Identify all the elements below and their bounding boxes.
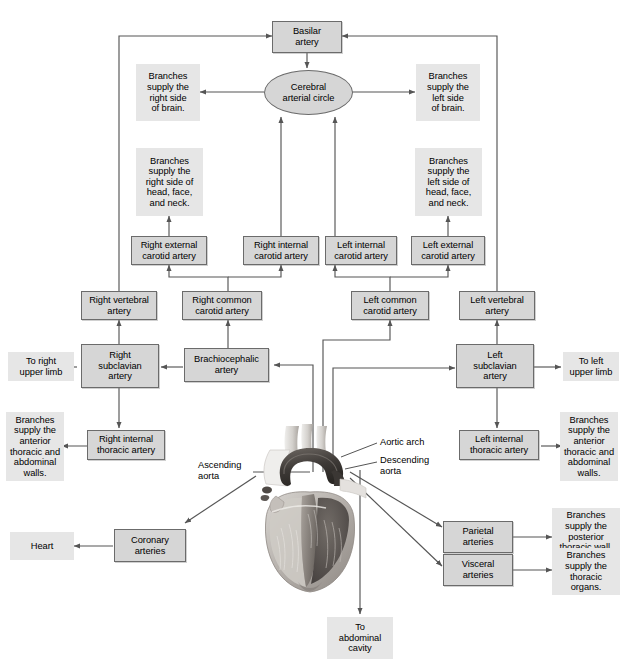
callout-ascending-aorta: Ascending aorta	[198, 460, 241, 482]
callout-aortic-arch: Aortic arch	[380, 437, 424, 448]
callout-descending-aorta: Descending aorta	[380, 455, 429, 477]
node-right-external-carotid-artery[interactable]: Right external carotid artery	[131, 236, 207, 265]
figure-canvas: Basilar artery Cerebral arterial circle …	[0, 0, 623, 665]
node-branches-left-brain: Branches supply the left side of brain.	[416, 64, 480, 121]
node-branches-thoracic-organs: Branches supply the thoracic organs.	[552, 548, 620, 595]
node-parietal-arteries[interactable]: Parietal arteries	[443, 521, 513, 553]
node-branches-left-thoracic-walls: Branches supply the anterior thoracic an…	[560, 412, 618, 481]
node-branches-left-head: Branches supply the left side of head, f…	[415, 148, 482, 216]
node-to-left-upper-limb: To left upper limb	[563, 352, 619, 381]
node-to-abdominal-cavity: To abdominal cavity	[327, 617, 393, 659]
node-branches-right-head: Branches supply the right side of head, …	[136, 148, 203, 216]
node-left-vertebral-artery[interactable]: Left vertebral artery	[459, 291, 535, 320]
node-left-internal-carotid-artery[interactable]: Left internal carotid artery	[325, 236, 397, 265]
node-cerebral-arterial-circle[interactable]: Cerebral arterial circle	[264, 70, 353, 115]
node-left-external-carotid-artery[interactable]: Left external carotid artery	[411, 236, 485, 265]
node-heart: Heart	[10, 532, 74, 560]
node-left-common-carotid-artery[interactable]: Left common carotid artery	[351, 291, 429, 320]
node-visceral-arteries[interactable]: Visceral arteries	[443, 554, 513, 586]
heart-illustration	[248, 424, 374, 600]
node-coronary-arteries[interactable]: Coronary arteries	[114, 529, 186, 562]
node-to-right-upper-limb: To right upper limb	[8, 352, 74, 381]
node-right-vertebral-artery[interactable]: Right vertebral artery	[81, 291, 157, 320]
node-left-internal-thoracic-artery[interactable]: Left internal thoracic artery	[459, 430, 539, 460]
node-branches-right-thoracic-walls: Branches supply the anterior thoracic an…	[6, 412, 64, 481]
node-left-subclavian-artery[interactable]: Left subclavian artery	[456, 344, 534, 388]
node-right-subclavian-artery[interactable]: Right subclavian artery	[81, 344, 159, 388]
node-right-internal-thoracic-artery[interactable]: Right internal thoracic artery	[87, 430, 165, 460]
running-head	[430, 0, 600, 7]
node-right-internal-carotid-artery[interactable]: Right internal carotid artery	[243, 236, 319, 265]
node-right-common-carotid-artery[interactable]: Right common carotid artery	[182, 291, 262, 320]
node-brachiocephalic-artery[interactable]: Brachiocephalic artery	[184, 348, 269, 382]
node-branches-right-brain: Branches supply the right side of brain.	[136, 64, 200, 121]
node-basilar-artery[interactable]: Basilar artery	[272, 21, 342, 53]
